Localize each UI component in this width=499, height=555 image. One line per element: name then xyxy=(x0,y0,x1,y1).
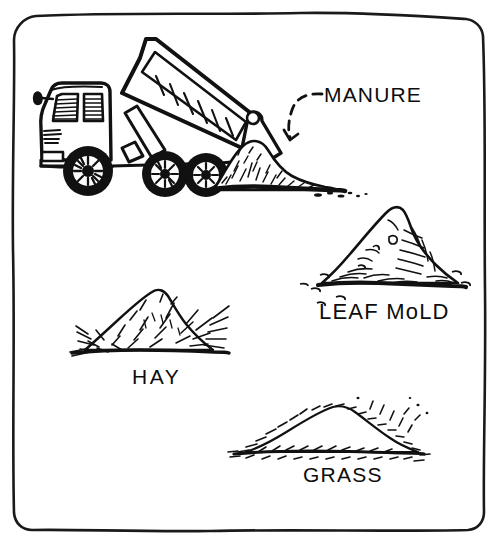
label-hay: HAY xyxy=(132,366,181,387)
cab-side-window xyxy=(84,94,103,121)
tailgate-hinge xyxy=(247,112,259,124)
label-manure: MANURE xyxy=(324,84,422,105)
illustration-canvas xyxy=(0,0,499,555)
rear-wheel-1 xyxy=(142,151,188,197)
front-bumper xyxy=(42,152,63,161)
front-wheel xyxy=(63,146,113,196)
cab-windshield xyxy=(53,94,78,121)
label-leaf-mold: LEAF MoLD xyxy=(319,301,450,323)
compost-materials-illustration: MANURE LEAF MoLD HAY GRASS xyxy=(0,0,499,555)
label-grass: GRASS xyxy=(303,464,383,485)
